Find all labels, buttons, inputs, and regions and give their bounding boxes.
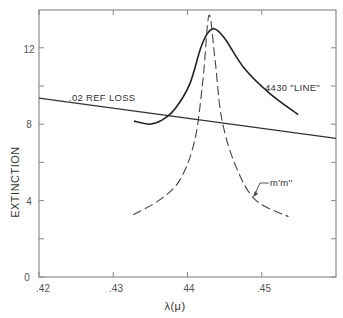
y-tick-label-8: 8 [26,119,32,130]
x-tick-label-44: 44 [183,283,195,294]
y-tick-label-12: 12 [23,44,35,55]
x-tick-label-45: .45 [257,283,271,294]
line-4430-label: 4430 "LINE" [265,82,320,93]
x-axis-title: λ(μ) [164,300,185,312]
y-tick-label-0: 0 [24,272,30,283]
line-4430-curve [134,29,298,125]
ref-loss-label: .02 REF LOSS [69,92,135,103]
x-tick-label-43: .43 [109,283,123,294]
y-tick-label-4: 4 [26,196,32,207]
ref-loss-line [39,98,336,138]
mm-leader-arrow-icon [253,191,258,197]
y-axis-title: EXTINCTION [9,146,21,218]
x-axis-ticks [39,10,262,277]
mm-dashed-curve [133,15,288,217]
mm-leader-line [255,183,269,194]
mm-label: m'm'' [270,177,293,188]
x-tick-label-42: .42 [36,283,50,294]
plot-frame [39,10,336,277]
extinction-chart: 0 4 8 12 .42 .43 44 .45 λ(μ) EXTINCTION … [0,0,343,318]
